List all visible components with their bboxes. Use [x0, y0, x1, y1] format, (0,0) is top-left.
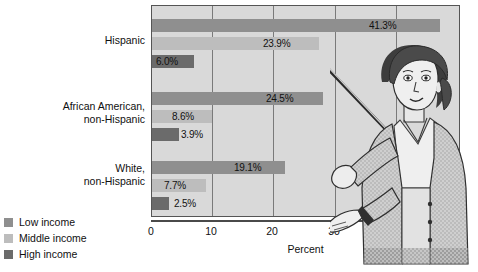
gridline-40	[396, 6, 397, 216]
x-axis-title: Percent	[151, 243, 460, 255]
legend-label-high-income: High income	[19, 248, 77, 260]
chart-legend: Low income Middle income High income	[4, 214, 87, 262]
legend-swatch-low-income-icon	[4, 218, 13, 227]
legend-item-middle-income: Middle income	[4, 230, 87, 246]
bar-african-american-high-income	[152, 128, 179, 141]
legend-swatch-middle-income-icon	[4, 234, 13, 243]
x-tick-label-30: 30	[319, 225, 349, 237]
category-label-white-line2: non-Hispanic	[0, 175, 145, 188]
x-tick-label-20: 20	[257, 225, 287, 237]
gridline-30	[335, 6, 336, 216]
bar-hispanic-middle-income	[152, 37, 319, 50]
x-tick-label-10: 10	[196, 225, 226, 237]
x-tick-label-40: 40	[380, 225, 410, 237]
plot-area: 41.3% 23.9% 6.0% 24.5% 8.6% 3.9% 19.1% 7…	[151, 5, 460, 217]
value-label-hispanic-low-income: 41.3%	[366, 19, 399, 32]
bar-white-high-income	[152, 197, 169, 210]
chart-figure: 41.3% 23.9% 6.0% 24.5% 8.6% 3.9% 19.1% 7…	[0, 0, 478, 272]
category-label-african-american-line2: non-Hispanic	[0, 113, 145, 126]
value-label-white-high-income: 2.5%	[171, 197, 199, 210]
jacket-button-3	[428, 238, 432, 242]
category-label-white: White, non-Hispanic	[0, 162, 145, 187]
value-label-hispanic-high-income: 6.0%	[153, 55, 181, 68]
category-label-african-american: African American, non-Hispanic	[0, 100, 145, 125]
bar-white-low-income	[152, 161, 285, 174]
x-axis-line	[151, 220, 460, 222]
value-label-hispanic-middle-income: 23.9%	[260, 37, 293, 50]
legend-item-low-income: Low income	[4, 214, 87, 230]
value-label-african-american-low-income: 24.5%	[263, 92, 296, 105]
legend-label-middle-income: Middle income	[19, 232, 87, 244]
legend-label-low-income: Low income	[19, 216, 75, 228]
legend-item-high-income: High income	[4, 246, 87, 262]
value-label-african-american-high-income: 3.9%	[178, 128, 206, 141]
x-tick-label-0: 0	[136, 225, 166, 237]
category-label-african-american-line1: African American,	[0, 100, 145, 113]
category-label-hispanic: Hispanic	[0, 34, 145, 47]
category-label-hispanic-line1: Hispanic	[0, 34, 145, 47]
category-label-white-line1: White,	[0, 162, 145, 175]
value-label-white-middle-income: 7.7%	[161, 179, 189, 192]
legend-swatch-high-income-icon	[4, 250, 13, 259]
value-label-african-american-middle-income: 8.6%	[169, 110, 197, 123]
value-label-white-low-income: 19.1%	[231, 161, 264, 174]
bar-african-american-low-income	[152, 92, 323, 105]
